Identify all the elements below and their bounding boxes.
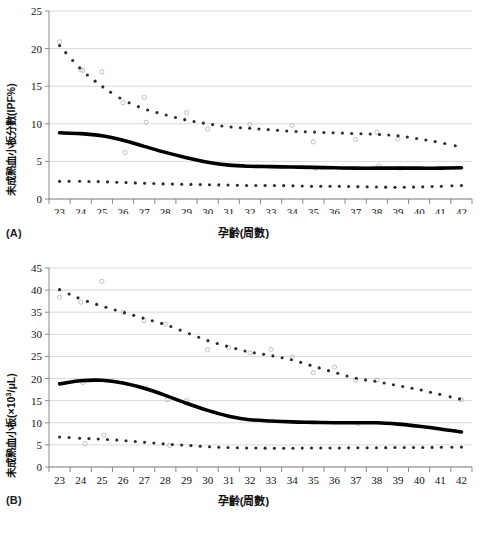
- percentile-dot: [450, 446, 453, 449]
- x-axis-title-b: 孕齡(周數): [0, 492, 487, 508]
- percentile-dot: [58, 44, 61, 47]
- scatter-point: [311, 371, 315, 375]
- percentile-dot: [124, 439, 127, 442]
- percentile-dot: [86, 300, 89, 303]
- percentile-dot: [68, 436, 71, 439]
- scatter-point: [142, 95, 146, 99]
- percentile-dot: [171, 183, 174, 186]
- x-tick-label: 37: [350, 474, 362, 486]
- x-tick-label: 40: [414, 474, 426, 486]
- percentile-dot: [291, 447, 294, 450]
- scatter-point: [57, 40, 61, 44]
- y-tick-label: 20: [31, 373, 43, 385]
- percentile-dot: [458, 397, 461, 400]
- percentile-dot: [211, 123, 214, 126]
- percentile-dot: [208, 183, 211, 186]
- percentile-dot: [162, 182, 165, 185]
- percentile-dot: [106, 180, 109, 183]
- percentile-dot: [189, 444, 192, 447]
- x-tick-label: 24: [75, 474, 87, 486]
- percentile-dot: [78, 180, 81, 183]
- scatter-point: [311, 140, 315, 144]
- percentile-dot: [226, 184, 229, 187]
- x-tick-label: 29: [181, 206, 193, 214]
- percentile-dot: [338, 446, 341, 449]
- percentile-dot: [171, 443, 174, 446]
- percentile-dot: [206, 339, 209, 342]
- percentile-dot: [160, 322, 163, 325]
- y-tick-label: 0: [37, 461, 43, 473]
- x-tick-label: 32: [244, 206, 255, 214]
- percentile-dotted-curve: [58, 180, 463, 189]
- percentile-dot: [431, 185, 434, 188]
- percentile-dot: [350, 132, 353, 135]
- x-tick-label: 28: [160, 474, 172, 486]
- x-tick-label: 40: [414, 206, 426, 214]
- percentile-dot: [440, 185, 443, 188]
- x-tick-label: 36: [329, 206, 341, 214]
- percentile-dot: [318, 366, 321, 369]
- x-tick-label: 38: [371, 206, 383, 214]
- percentile-dot: [449, 395, 452, 398]
- x-tick-label: 37: [350, 206, 362, 214]
- percentile-dot: [347, 446, 350, 449]
- median-curve: [60, 380, 462, 432]
- y-tick-label: 45: [31, 262, 43, 274]
- scatter-point: [248, 351, 252, 355]
- percentile-dot: [236, 184, 239, 187]
- percentile-dot: [243, 349, 246, 352]
- x-tick-label: 30: [202, 474, 214, 486]
- percentile-dot: [217, 446, 220, 449]
- percentile-dot: [282, 447, 285, 450]
- x-tick-label: 24: [75, 206, 87, 214]
- percentile-dot: [217, 183, 220, 186]
- percentile-dot: [109, 91, 112, 94]
- percentile-dot: [95, 303, 98, 306]
- x-tick-label: 42: [456, 474, 467, 486]
- y-tick-label: 5: [37, 155, 43, 167]
- x-tick-label: 31: [223, 206, 234, 214]
- percentile-dot: [301, 184, 304, 187]
- percentile-dot: [440, 446, 443, 449]
- percentile-dot: [338, 185, 341, 188]
- percentile-dot: [248, 127, 251, 130]
- x-tick-label: 32: [244, 474, 255, 486]
- percentile-dot: [285, 129, 288, 132]
- y-tick-label: 10: [31, 118, 43, 130]
- percentile-dot: [438, 393, 441, 396]
- percentile-dot: [78, 437, 81, 440]
- percentile-dot: [319, 185, 322, 188]
- y-tick-label: 40: [31, 284, 43, 296]
- x-tick-label: 27: [139, 474, 151, 486]
- y-tick-label: 5: [37, 439, 43, 451]
- y-axis-title-b: 未成熟血小板(×103/μL): [3, 373, 18, 478]
- percentile-dot: [118, 96, 121, 99]
- percentile-dot: [346, 374, 349, 377]
- x-tick-label: 39: [392, 206, 404, 214]
- percentile-dot: [236, 446, 239, 449]
- percentile-dot: [245, 184, 248, 187]
- x-tick-label: 25: [96, 474, 108, 486]
- percentile-dot: [421, 446, 424, 449]
- percentile-dot: [401, 385, 404, 388]
- x-tick-label: 41: [435, 206, 446, 214]
- x-tick-label: 42: [456, 206, 467, 214]
- percentile-dot: [264, 447, 267, 450]
- percentile-dot: [304, 130, 307, 133]
- percentile-dot: [273, 447, 276, 450]
- scatter-point: [100, 70, 104, 74]
- percentile-dotted-curve: [58, 44, 457, 147]
- percentile-dot: [262, 353, 265, 356]
- percentile-dot: [137, 105, 140, 108]
- percentile-dot: [68, 180, 71, 183]
- percentile-dot: [101, 85, 104, 88]
- x-tick-label: 33: [266, 206, 278, 214]
- y-axis-title-b-pre: 未成熟血小板(×10: [5, 397, 17, 478]
- percentile-dot: [267, 128, 270, 131]
- scatter-point: [184, 110, 188, 114]
- percentile-dot: [230, 125, 233, 128]
- x-tick-label: 36: [329, 474, 341, 486]
- percentile-dot: [68, 292, 71, 295]
- percentile-dot: [58, 288, 61, 291]
- y-tick-label: 15: [31, 395, 43, 407]
